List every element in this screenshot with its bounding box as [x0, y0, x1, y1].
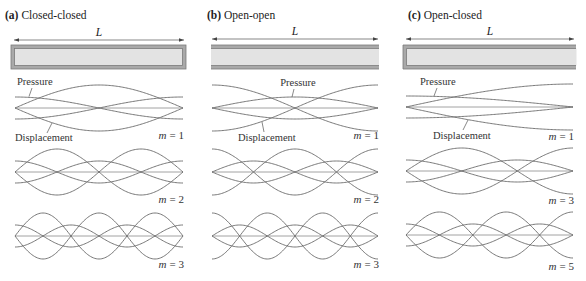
mode-symbol: m — [549, 194, 557, 206]
mode-label: m= 1 — [159, 129, 184, 141]
mode-label: m= 2 — [354, 193, 379, 205]
arrowhead-left-icon — [406, 37, 411, 41]
tube-closed-closed — [11, 45, 186, 69]
displacement-curve — [15, 85, 183, 108]
mode-value: = 3 — [365, 258, 380, 270]
mode-row — [15, 213, 183, 259]
mode-row — [406, 212, 573, 258]
panel-title: (a)Closed-closed — [5, 9, 87, 22]
mode-label: m= 3 — [549, 194, 575, 206]
mode-row — [406, 84, 573, 130]
arrowhead-left-icon — [212, 37, 217, 41]
panel-title-text: Open-closed — [424, 9, 482, 22]
displacement-curve — [406, 107, 573, 130]
mode-row — [406, 148, 573, 194]
panel-open-closed: (c)Open-closed L Pressure Displacement m… — [403, 9, 577, 272]
mode-symbol: m — [159, 193, 167, 205]
displacement-curve — [406, 84, 573, 107]
length-label: L — [291, 25, 298, 37]
panel-letter: (a) — [5, 9, 19, 22]
mode-row — [212, 149, 378, 195]
length-label: L — [486, 25, 493, 37]
mode-label: m= 3 — [354, 258, 380, 270]
pressure-label: Pressure — [420, 76, 456, 87]
pressure-label: Pressure — [280, 77, 316, 88]
mode-value: = 2 — [365, 193, 379, 205]
mode-label: m= 3 — [159, 258, 185, 270]
panel-title: (c)Open-closed — [408, 9, 482, 22]
mode-symbol: m — [354, 129, 362, 141]
displacement-leader-line — [463, 120, 468, 130]
mode-symbol: m — [549, 260, 557, 272]
mode-value: = 1 — [560, 130, 574, 142]
standing-waves-figure: (a)Closed-closed L Pressure Displacement… — [0, 0, 586, 281]
panel-title-text: Open-open — [224, 9, 275, 22]
tube-wall-bottom — [211, 66, 379, 70]
tube-interior — [407, 49, 577, 66]
panel-title: (b)Open-open — [207, 9, 275, 22]
mode-value: = 1 — [365, 129, 379, 141]
length-arrow — [212, 37, 378, 41]
displacement-label: Displacement — [15, 132, 73, 143]
length-label: L — [95, 26, 102, 38]
panel-letter: (b) — [207, 9, 221, 22]
panel-open-open: (b)Open-open L Pressure Displacement m= … — [207, 9, 379, 270]
displacement-label: Displacement — [238, 132, 296, 143]
pressure-curve — [212, 97, 378, 108]
mode-label: m= 1 — [354, 129, 379, 141]
mode-symbol: m — [159, 129, 167, 141]
mode-label: m= 1 — [549, 130, 574, 142]
tube-interior — [15, 49, 183, 66]
arrowhead-right-icon — [569, 37, 574, 41]
panel-letter: (c) — [408, 9, 421, 22]
mode-value: = 3 — [170, 258, 185, 270]
mode-symbol: m — [354, 258, 362, 270]
tube-wall-top — [211, 45, 379, 49]
pressure-curve — [212, 108, 378, 119]
pressure-leader-line — [434, 88, 437, 96]
mode-label: m= 2 — [159, 193, 184, 205]
mode-value: = 2 — [170, 193, 184, 205]
displacement-leader-line — [262, 122, 264, 132]
mode-row — [212, 85, 378, 131]
displacement-curve — [15, 108, 183, 131]
length-arrow — [406, 37, 574, 41]
mode-label: m= 5 — [549, 260, 575, 272]
pressure-label: Pressure — [17, 76, 53, 87]
mode-row — [15, 85, 183, 131]
mode-value: = 5 — [560, 260, 575, 272]
pressure-leader-line — [292, 89, 294, 97]
mode-symbol: m — [354, 193, 362, 205]
panel-closed-closed: (a)Closed-closed L Pressure Displacement… — [5, 9, 186, 270]
tube-interior — [211, 49, 379, 66]
length-arrow — [14, 38, 184, 42]
mode-row — [15, 149, 183, 195]
tube-closed-open — [403, 45, 577, 69]
arrowhead-right-icon — [179, 38, 184, 42]
arrowhead-left-icon — [14, 38, 19, 42]
mode-symbol: m — [549, 130, 557, 142]
mode-row — [212, 213, 378, 259]
displacement-label: Displacement — [433, 130, 491, 141]
tube-open-open — [211, 45, 379, 69]
mode-value: = 3 — [560, 194, 575, 206]
arrowhead-right-icon — [373, 37, 378, 41]
mode-value: = 1 — [170, 129, 184, 141]
panel-title-text: Closed-closed — [21, 9, 86, 21]
pressure-leader-line — [29, 88, 32, 97]
mode-symbol: m — [159, 258, 167, 270]
